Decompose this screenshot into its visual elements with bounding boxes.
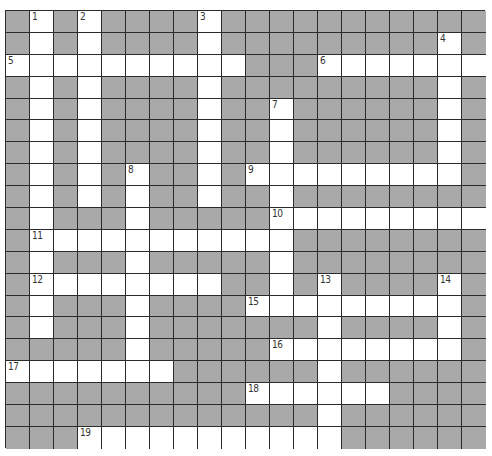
crossword-cell[interactable] <box>222 230 246 252</box>
crossword-cell[interactable] <box>438 317 462 339</box>
crossword-cell[interactable] <box>198 274 222 296</box>
crossword-cell[interactable] <box>78 99 102 121</box>
crossword-cell[interactable] <box>30 208 54 230</box>
crossword-cell[interactable] <box>102 361 126 383</box>
crossword-cell[interactable]: 17 <box>6 361 30 383</box>
crossword-cell[interactable] <box>126 230 150 252</box>
crossword-cell[interactable] <box>318 317 342 339</box>
crossword-cell[interactable] <box>318 405 342 427</box>
crossword-cell[interactable] <box>342 296 366 318</box>
crossword-cell[interactable] <box>414 208 438 230</box>
crossword-cell[interactable] <box>126 361 150 383</box>
crossword-cell[interactable] <box>438 296 462 318</box>
crossword-cell[interactable] <box>294 164 318 186</box>
crossword-cell[interactable] <box>438 208 462 230</box>
crossword-cell[interactable]: 18 <box>246 383 270 405</box>
crossword-cell[interactable] <box>318 164 342 186</box>
crossword-cell[interactable] <box>30 99 54 121</box>
crossword-cell[interactable] <box>30 296 54 318</box>
crossword-cell[interactable] <box>294 383 318 405</box>
crossword-cell[interactable] <box>318 296 342 318</box>
crossword-cell[interactable] <box>342 383 366 405</box>
crossword-cell[interactable] <box>30 317 54 339</box>
crossword-cell[interactable] <box>198 230 222 252</box>
crossword-cell[interactable] <box>78 142 102 164</box>
crossword-cell[interactable] <box>78 77 102 99</box>
crossword-cell[interactable]: 5 <box>6 55 30 77</box>
crossword-cell[interactable] <box>294 296 318 318</box>
crossword-cell[interactable] <box>78 361 102 383</box>
crossword-cell[interactable]: 14 <box>438 274 462 296</box>
crossword-cell[interactable] <box>198 33 222 55</box>
crossword-cell[interactable] <box>30 164 54 186</box>
crossword-cell[interactable] <box>318 383 342 405</box>
crossword-cell[interactable] <box>78 33 102 55</box>
crossword-cell[interactable] <box>150 55 174 77</box>
crossword-cell[interactable] <box>438 55 462 77</box>
crossword-cell[interactable] <box>54 230 78 252</box>
crossword-cell[interactable] <box>438 120 462 142</box>
crossword-cell[interactable]: 11 <box>30 230 54 252</box>
crossword-cell[interactable] <box>270 230 294 252</box>
crossword-cell[interactable] <box>366 208 390 230</box>
crossword-cell[interactable] <box>102 230 126 252</box>
crossword-cell[interactable] <box>270 164 294 186</box>
crossword-cell[interactable] <box>102 427 126 449</box>
crossword-cell[interactable]: 6 <box>318 55 342 77</box>
crossword-cell[interactable] <box>366 383 390 405</box>
crossword-cell[interactable] <box>438 164 462 186</box>
crossword-cell[interactable] <box>30 252 54 274</box>
crossword-cell[interactable] <box>78 186 102 208</box>
crossword-cell[interactable] <box>270 427 294 449</box>
crossword-cell[interactable] <box>198 186 222 208</box>
crossword-cell[interactable] <box>78 164 102 186</box>
crossword-cell[interactable]: 2 <box>78 11 102 33</box>
crossword-cell[interactable] <box>438 77 462 99</box>
crossword-cell[interactable]: 3 <box>198 11 222 33</box>
crossword-cell[interactable] <box>102 55 126 77</box>
crossword-cell[interactable] <box>126 274 150 296</box>
crossword-cell[interactable]: 8 <box>126 164 150 186</box>
crossword-cell[interactable] <box>390 55 414 77</box>
crossword-cell[interactable] <box>126 186 150 208</box>
crossword-cell[interactable] <box>30 186 54 208</box>
crossword-cell[interactable]: 9 <box>246 164 270 186</box>
crossword-cell[interactable] <box>54 361 78 383</box>
crossword-cell[interactable] <box>270 120 294 142</box>
crossword-cell[interactable]: 4 <box>438 33 462 55</box>
crossword-cell[interactable] <box>414 296 438 318</box>
crossword-cell[interactable] <box>366 55 390 77</box>
crossword-cell[interactable] <box>150 361 174 383</box>
crossword-cell[interactable] <box>198 427 222 449</box>
crossword-cell[interactable] <box>126 296 150 318</box>
crossword-cell[interactable] <box>174 274 198 296</box>
crossword-cell[interactable] <box>462 55 486 77</box>
crossword-cell[interactable] <box>126 427 150 449</box>
crossword-cell[interactable] <box>198 142 222 164</box>
crossword-cell[interactable] <box>30 77 54 99</box>
crossword-cell[interactable] <box>270 296 294 318</box>
crossword-cell[interactable] <box>342 55 366 77</box>
crossword-cell[interactable] <box>342 164 366 186</box>
crossword-cell[interactable] <box>294 339 318 361</box>
crossword-cell[interactable] <box>198 164 222 186</box>
crossword-cell[interactable] <box>366 164 390 186</box>
crossword-cell[interactable]: 7 <box>270 99 294 121</box>
crossword-cell[interactable] <box>366 339 390 361</box>
crossword-cell[interactable] <box>30 361 54 383</box>
crossword-cell[interactable] <box>246 230 270 252</box>
crossword-cell[interactable]: 16 <box>270 339 294 361</box>
crossword-cell[interactable] <box>366 296 390 318</box>
crossword-cell[interactable] <box>126 317 150 339</box>
crossword-cell[interactable] <box>150 274 174 296</box>
crossword-cell[interactable] <box>222 55 246 77</box>
crossword-cell[interactable] <box>102 274 126 296</box>
crossword-cell[interactable] <box>438 339 462 361</box>
crossword-cell[interactable] <box>78 120 102 142</box>
crossword-cell[interactable]: 13 <box>318 274 342 296</box>
crossword-cell[interactable] <box>462 208 486 230</box>
crossword-cell[interactable] <box>174 230 198 252</box>
crossword-cell[interactable] <box>198 120 222 142</box>
crossword-cell[interactable] <box>150 427 174 449</box>
crossword-cell[interactable] <box>390 164 414 186</box>
